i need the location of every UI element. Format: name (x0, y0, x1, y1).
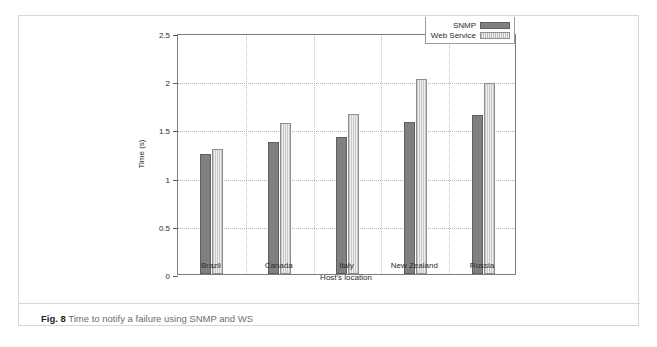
x-tick-label: New Zealand (391, 261, 438, 270)
y-tick-mark (173, 276, 178, 277)
y-gridline (178, 131, 515, 132)
legend-swatch-snmp-icon (480, 22, 510, 29)
legend-item-web-service: Web Service (428, 30, 510, 40)
x-tick-label: Canada (265, 261, 293, 270)
y-tick-mark (173, 131, 178, 132)
y-tick-label: 1 (166, 175, 170, 184)
y-tick-label: 2 (166, 79, 170, 88)
bar-web-service-russia (484, 83, 495, 274)
bar-snmp-russia (472, 115, 483, 274)
y-tick-label: 0 (166, 272, 170, 281)
x-gridline (449, 35, 450, 274)
legend-label-snmp: SNMP (453, 21, 476, 30)
x-gridline (381, 35, 382, 274)
y-gridline (178, 83, 515, 84)
y-tick-label: 0.5 (159, 223, 170, 232)
y-tick-mark (173, 35, 178, 36)
x-gridline (246, 35, 247, 274)
figure-caption-text: Time to notify a failure using SNMP and … (68, 313, 253, 324)
plot-area: 00.511.522.5 (177, 34, 516, 275)
bar-web-service-brazil (212, 149, 223, 274)
y-tick-label: 1.5 (159, 127, 170, 136)
bar-snmp-canada (268, 142, 279, 274)
x-tick-label: Italy (339, 261, 354, 270)
y-tick-mark (173, 180, 178, 181)
figure-caption: Fig. 8 Time to notify a failure using SN… (19, 303, 640, 325)
legend-item-snmp: SNMP (428, 20, 510, 30)
legend-swatch-web-service-icon (480, 32, 510, 39)
y-tick-mark (173, 228, 178, 229)
bar-snmp-italy (336, 137, 347, 274)
x-tick-label: Brazil (201, 261, 221, 270)
x-tick-label: Russia (470, 261, 494, 270)
figure-container: Time (s) Host's location 00.511.522.5 SN… (18, 15, 639, 326)
chart-legend: SNMP Web Service (425, 17, 515, 44)
y-tick-mark (173, 83, 178, 84)
bar-web-service-italy (348, 114, 359, 274)
y-axis-label: Time (s) (137, 139, 146, 168)
bar-web-service-new-zealand (416, 79, 427, 274)
x-gridline (314, 35, 315, 274)
y-tick-label: 2.5 (159, 31, 170, 40)
bar-snmp-brazil (200, 154, 211, 274)
bar-snmp-new-zealand (404, 122, 415, 274)
legend-label-web-service: Web Service (431, 31, 476, 40)
bar-chart: Time (s) Host's location 00.511.522.5 SN… (19, 16, 640, 296)
figure-caption-label: Fig. 8 (41, 313, 66, 324)
bar-web-service-canada (280, 123, 291, 274)
